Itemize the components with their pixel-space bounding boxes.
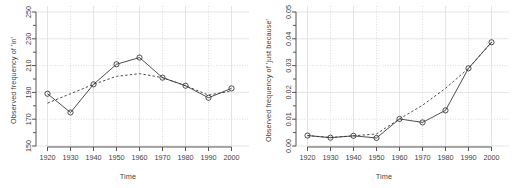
x-tick-label: 2000 [483, 153, 499, 162]
y-tick-label: 190 [24, 86, 33, 98]
x-tick-label: 1980 [177, 153, 193, 162]
right-panel: Observed frequency of 'just because' Tim… [256, 0, 512, 188]
x-tick-label: 1990 [200, 153, 216, 162]
x-tick-label: 1960 [391, 153, 407, 162]
y-tick-label: 0.01 [284, 112, 293, 126]
figure-container: Observed frequency of 'in' Time 15017019… [0, 0, 512, 188]
x-tick-label: 1920 [39, 153, 55, 162]
x-tick-label: 1930 [322, 153, 338, 162]
x-tick-label: 1950 [368, 153, 384, 162]
x-tick-label: 1990 [460, 153, 476, 162]
y-tick-label: 250 [24, 6, 33, 18]
y-tick-label: 0.04 [284, 32, 293, 46]
y-tick-label: 150 [24, 140, 33, 152]
y-tick-label: 0.00 [284, 139, 293, 153]
x-tick-label: 2000 [223, 153, 239, 162]
y-tick-label: 210 [24, 60, 33, 72]
x-tick-label: 1950 [108, 153, 124, 162]
x-tick-label: 1940 [85, 153, 101, 162]
x-tick-label: 1920 [299, 153, 315, 162]
x-tick-label: 1940 [345, 153, 361, 162]
y-tick-label: 230 [24, 33, 33, 45]
x-tick-label: 1970 [154, 153, 170, 162]
y-tick-label: 170 [24, 113, 33, 125]
right-plot-area: 0.000.010.020.030.040.051920193019401950… [256, 0, 512, 188]
left-plot-area: 1501701902102302501920193019401950196019… [0, 0, 256, 188]
x-tick-label: 1970 [414, 153, 430, 162]
y-tick-label: 0.02 [284, 85, 293, 99]
y-tick-label: 0.03 [284, 58, 293, 72]
x-tick-label: 1980 [437, 153, 453, 162]
y-tick-label: 0.05 [284, 5, 293, 19]
x-tick-label: 1960 [131, 153, 147, 162]
x-tick-label: 1930 [62, 153, 78, 162]
left-panel: Observed frequency of 'in' Time 15017019… [0, 0, 256, 188]
